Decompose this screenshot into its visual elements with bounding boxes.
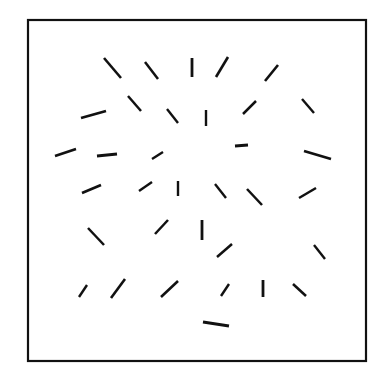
figure-root (0, 0, 381, 380)
line-orientation-plot (0, 0, 381, 380)
line-segment (235, 145, 248, 146)
bounding-box-frame (28, 20, 366, 361)
line-segment (97, 154, 117, 156)
